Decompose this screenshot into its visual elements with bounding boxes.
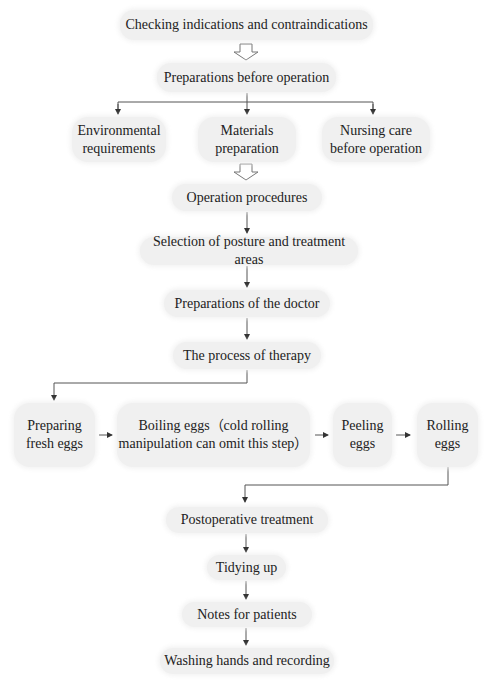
- node-notes-for-patients: Notes for patients: [182, 602, 312, 627]
- node-checking-indications: Checking indications and contraindicatio…: [120, 10, 373, 40]
- node-label-line1: Materials: [221, 122, 274, 140]
- node-label: Postoperative treatment: [181, 511, 314, 529]
- node-label: Tidying up: [216, 559, 277, 577]
- node-label: Preparations before operation: [164, 69, 330, 87]
- node-label-line2: requirements: [82, 140, 155, 158]
- node-label: Washing hands and recording: [164, 652, 330, 670]
- node-label-line1: Nursing care: [340, 122, 412, 140]
- node-label-line1: Environmental: [77, 122, 160, 140]
- node-selection-of-posture: Selection of posture and treatment areas: [140, 237, 358, 265]
- node-label-line1: Boiling eggs（cold rolling: [138, 417, 288, 435]
- node-label-line2: eggs: [435, 435, 461, 453]
- node-label-line2: manipulation can omit this step）: [119, 435, 309, 453]
- node-peeling-eggs: Peeling eggs: [333, 403, 392, 467]
- node-label: Operation procedures: [187, 189, 308, 207]
- node-nursing-care-before-operation: Nursing care before operation: [322, 117, 430, 162]
- node-materials-preparation: Materials preparation: [198, 117, 296, 162]
- node-preparations-of-doctor: Preparations of the doctor: [164, 290, 330, 317]
- node-label-line2: eggs: [350, 435, 376, 453]
- node-label-line2: before operation: [330, 140, 422, 158]
- node-label-line1: Rolling: [426, 417, 468, 435]
- hollow-arrow-icon: [234, 164, 258, 180]
- node-label: Selection of posture and treatment areas: [140, 233, 358, 269]
- node-label-line1: Peeling: [342, 417, 384, 435]
- node-label-line1: Preparing: [27, 417, 81, 435]
- node-label: The process of therapy: [183, 347, 311, 365]
- node-label: Checking indications and contraindicatio…: [125, 16, 367, 34]
- node-label: Notes for patients: [197, 606, 297, 624]
- hollow-arrow-icon: [234, 44, 258, 60]
- node-process-of-therapy: The process of therapy: [173, 342, 321, 369]
- node-postoperative-treatment: Postoperative treatment: [166, 507, 328, 533]
- node-label-line2: fresh eggs: [26, 435, 83, 453]
- node-tidying-up: Tidying up: [207, 555, 286, 580]
- node-environmental-requirements: Environmental requirements: [72, 117, 166, 162]
- node-label: Preparations of the doctor: [174, 295, 319, 313]
- node-rolling-eggs: Rolling eggs: [417, 403, 478, 467]
- node-preparations-before-operation: Preparations before operation: [157, 63, 336, 92]
- node-preparing-fresh-eggs: Preparing fresh eggs: [14, 403, 95, 467]
- node-label-line2: preparation: [215, 140, 279, 158]
- node-washing-hands: Washing hands and recording: [160, 648, 334, 674]
- node-operation-procedures: Operation procedures: [172, 184, 322, 211]
- node-boiling-eggs: Boiling eggs（cold rolling manipulation c…: [117, 403, 310, 467]
